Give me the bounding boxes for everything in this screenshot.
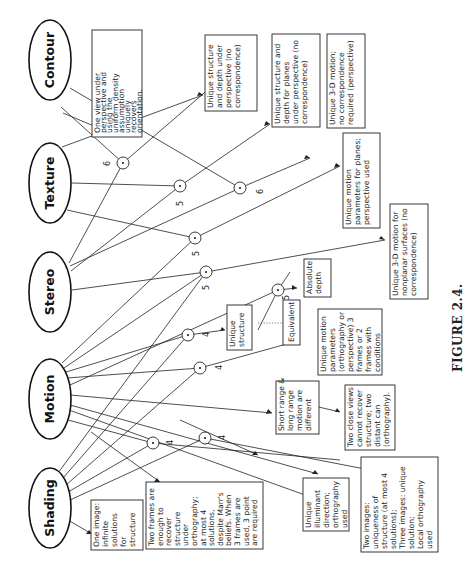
svg-text:are required: are required — [250, 499, 259, 546]
box-two-close-views: Two close views cannot recover structure… — [345, 385, 395, 450]
module-contour: Contour — [29, 20, 71, 100]
svg-text:(orthography).: (orthography). — [382, 392, 391, 447]
svg-text:solution;: solution; — [407, 516, 416, 549]
svg-text:One image:: One image: — [92, 503, 101, 547]
module-texture: Texture — [29, 143, 71, 223]
box-texture-result: Unique structure and depth under perspec… — [205, 35, 257, 111]
svg-text:6: 6 — [103, 161, 112, 166]
svg-text:Texture: Texture — [42, 157, 57, 210]
box-two-images: Two images: uniqueness of structure (at … — [361, 457, 438, 552]
svg-text:(orthography or: (orthography or — [337, 311, 346, 372]
svg-text:perspective) 3: perspective) 3 — [346, 317, 355, 372]
svg-text:6: 6 — [256, 189, 265, 194]
box-unique-structure: Unique structure — [227, 305, 252, 350]
svg-text:orientation.: orientation. — [135, 89, 144, 133]
diagram-canvas: 3 6 6 5 5 5 5 4 4 4 4 Contour Texture St… — [0, 0, 472, 575]
box-text: Equivalent — [287, 302, 296, 342]
junctions — [117, 157, 284, 449]
svg-text:4: 4 — [166, 440, 175, 445]
svg-text:conditions: conditions — [373, 333, 382, 372]
svg-text:Equivalent: Equivalent — [287, 302, 296, 342]
svg-text:nonplanar surfaces (no: nonplanar surfaces (no — [400, 208, 409, 296]
svg-text:structure: structure — [237, 312, 246, 347]
svg-text:orthography: orthography — [331, 481, 340, 528]
svg-text:perspective used: perspective used — [362, 160, 371, 225]
svg-text:Motion: Motion — [42, 375, 57, 424]
svg-text:frames with: frames with — [364, 327, 373, 372]
svg-text:distant can: distant can — [373, 404, 382, 447]
svg-text:4: 4 — [215, 365, 224, 370]
svg-text:Absolute: Absolute — [305, 260, 314, 294]
module-motion: Motion — [29, 359, 71, 439]
svg-text:Two images:: Two images: — [362, 502, 371, 550]
svg-text:correspondence): correspondence) — [300, 60, 309, 124]
svg-text:Three images: unique: Three images: unique — [398, 466, 407, 550]
box-absolute-depth: Absolute depth — [304, 259, 331, 297]
svg-text:used: used — [340, 510, 349, 528]
svg-text:5: 5 — [192, 251, 201, 256]
svg-text:direction;: direction; — [322, 492, 331, 528]
svg-text:structure; two: structure; two — [364, 393, 373, 447]
svg-text:Unique 3-D motion for: Unique 3-D motion for — [391, 211, 400, 296]
svg-text:Stereo: Stereo — [42, 268, 57, 315]
svg-text:5: 5 — [176, 201, 185, 206]
box-motion-3d: Unique 3-D motion; no correspondence req… — [327, 34, 365, 128]
box-motion-planes: Unique motion parameters for planes; per… — [343, 133, 380, 228]
svg-text:required (perspective): required (perspective) — [346, 40, 355, 125]
svg-text:Unique motion: Unique motion — [319, 316, 328, 372]
svg-text:Short range &: Short range & — [277, 378, 286, 431]
box-nonplanar: Unique 3-D motion for nonplanar surfaces… — [390, 204, 428, 299]
svg-text:Two close views: Two close views — [346, 387, 355, 448]
svg-text:5: 5 — [282, 295, 291, 300]
svg-text:frames or 2: frames or 2 — [355, 328, 364, 372]
svg-text:infinite: infinite — [101, 520, 110, 547]
svg-text:used: used — [425, 531, 434, 549]
svg-text:no correspondence: no correspondence — [337, 52, 346, 125]
box-short-long-range: Short range & long range motion are diff… — [276, 378, 319, 434]
svg-text:4: 4 — [218, 435, 227, 440]
svg-text:correspondence): correspondence) — [233, 44, 242, 108]
svg-text:structure (at most 4: structure (at most 4 — [380, 473, 389, 549]
svg-text:depth for planes: depth for planes — [282, 62, 291, 124]
svg-text:uniqueness of: uniqueness of — [371, 496, 380, 549]
box-text: Unique 3-D motion; no correspondence req… — [328, 40, 355, 125]
svg-text:depth: depth — [314, 272, 323, 294]
box-motion-params: Unique motion parameters (orthography or… — [318, 309, 382, 375]
svg-text:motion are: motion are — [295, 389, 304, 431]
svg-text:Local orthography: Local orthography — [416, 479, 425, 549]
box-shading-one-image: One image: infinite solutions for struct… — [91, 500, 143, 550]
figure-caption: FIGURE 2.4. — [451, 283, 465, 372]
box-text: Unique structure and depth under perspec… — [206, 44, 242, 108]
box-equivalent: Equivalent — [283, 300, 300, 345]
svg-text:and depth under: and depth under — [215, 44, 224, 108]
svg-text:perspective (no: perspective (no — [224, 48, 233, 108]
module-stereo: Stereo — [29, 252, 71, 332]
svg-text:cannot recover: cannot recover — [355, 389, 364, 447]
box-two-frames: Two frames are enough to recover structu… — [146, 482, 263, 549]
svg-text:under perspective (no: under perspective (no — [291, 40, 300, 124]
svg-text:4: 4 — [202, 332, 211, 337]
svg-text:5: 5 — [202, 285, 211, 290]
svg-text:Unique structure and: Unique structure and — [273, 43, 282, 124]
svg-text:parameters for planes;: parameters for planes; — [353, 138, 362, 225]
svg-text:Unique motion: Unique motion — [344, 169, 353, 225]
module-shading: Shading — [29, 468, 71, 548]
svg-text:structure: structure — [128, 512, 137, 547]
svg-text:solutions: solutions — [110, 513, 119, 547]
svg-text:different: different — [304, 399, 313, 431]
svg-text:Contour: Contour — [42, 31, 57, 88]
svg-text:Unique: Unique — [228, 320, 237, 347]
svg-text:correspondence): correspondence) — [409, 232, 418, 296]
svg-text:for: for — [119, 536, 128, 547]
svg-text:solutions);: solutions); — [389, 509, 398, 549]
box-text: Two close views cannot recover structure… — [346, 387, 391, 448]
svg-text:illuminant: illuminant — [313, 490, 322, 528]
svg-text:Unique: Unique — [304, 501, 313, 528]
svg-text:Unique 3-D motion;: Unique 3-D motion; — [328, 51, 337, 125]
svg-text:Unique structure: Unique structure — [206, 44, 215, 108]
svg-text:parameters: parameters — [328, 328, 337, 372]
box-texture-planes: Unique structure and depth for planes un… — [272, 34, 320, 127]
edge-numbers: 3 6 6 5 5 5 5 4 4 4 4 — [99, 119, 291, 445]
svg-text:Shading: Shading — [42, 479, 57, 536]
box-illuminant: Unique illuminant direction; orthography… — [303, 478, 349, 531]
